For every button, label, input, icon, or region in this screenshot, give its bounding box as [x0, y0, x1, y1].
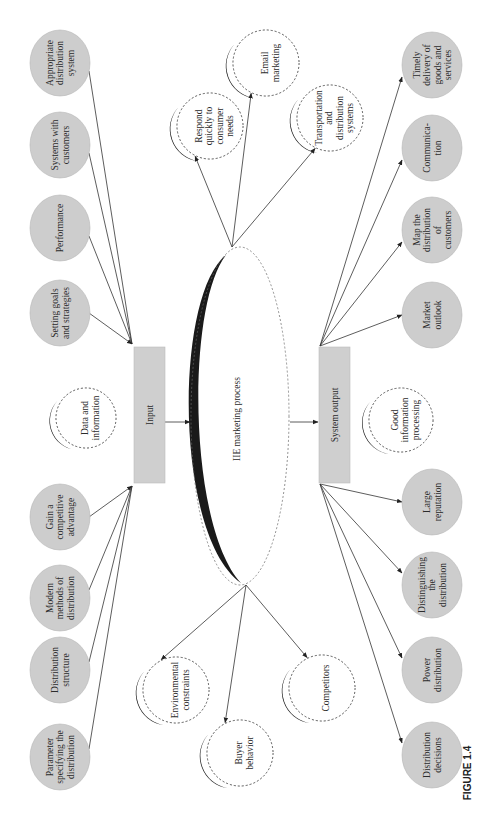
output-target-reputation-label-line: reputation	[433, 482, 443, 521]
input-source-systems-label-line: Systems with	[50, 119, 60, 170]
line-systems-to-input	[89, 153, 132, 344]
iie-marketing-process-node: IIE marketing process	[189, 247, 289, 585]
process-output-respond-label-line: consumer	[215, 107, 225, 145]
iie-marketing-process-diagram: IIE marketing processInputSystem outputA…	[0, 0, 487, 840]
input-source-parameter-label-line: Parameter	[45, 737, 55, 776]
process-output-email-label-line: Email	[260, 51, 270, 74]
line-output-to-power	[320, 484, 402, 658]
input-source-parameter: Parameterspecifying thedistribution	[30, 724, 90, 790]
output-target-timely-label-line: services	[443, 49, 453, 80]
input-source-parameter-label-line: distribution	[66, 735, 76, 779]
output-target-market-label-line: outlook	[433, 300, 443, 329]
line-process-to-transport	[232, 148, 315, 247]
input-source-modern: Modernmethods ofdistribution	[30, 565, 90, 631]
process-output-environment-label-line: constraints	[181, 669, 191, 710]
input-source-systems: Systems withcustomers	[30, 112, 90, 178]
line-output-to-distinguishing	[320, 484, 402, 573]
input-source-competitive-label-line: advantage	[66, 498, 76, 537]
input-source-competitive: Gain acompetitiveadvantage	[30, 484, 90, 550]
output-target-timely-label-line: goods and	[433, 45, 443, 84]
input-source-performance-label-line: Performance	[55, 204, 65, 253]
input-source-parameter-label: Parameterspecifying thedistribution	[45, 730, 76, 784]
input-source-modern-label-line: methods of	[55, 576, 65, 619]
line-process-to-environment	[161, 585, 246, 660]
process-output-respond-label-line: Respond	[194, 109, 204, 143]
output-target-map-label-line: customers	[443, 210, 453, 249]
process-output-buyer-label-line: Buyer	[234, 741, 244, 765]
input-source-goals-label-line: Setting goals	[50, 288, 60, 338]
input-source-appropriate: Appropriatedistributionsystem	[30, 30, 90, 96]
system-output-box: System output	[319, 347, 350, 483]
output-target-decisions-label-line: decisions	[433, 737, 443, 773]
process-output-transport: Transportationanddistributionsystems	[290, 85, 363, 153]
process-output-transport-label-line: systems	[345, 103, 355, 133]
input-source-performance-label: Performance	[55, 204, 65, 253]
process-output-transport-label-line: Transportation	[314, 90, 324, 146]
input-side-note-label: Data andinformation	[80, 395, 101, 440]
input-source-appropriate-label-line: system	[66, 49, 76, 76]
input-source-goals-label: Setting goalsand strategies	[50, 287, 71, 339]
line-process-to-respond	[195, 156, 232, 247]
output-target-communication-label-line: Communica-	[422, 123, 432, 173]
output-target-distinguishing-label-line: Distinguishing	[417, 557, 427, 613]
output-target-reputation-label-line: Large	[422, 491, 432, 513]
input-source-goals-label-line: and strategies	[61, 287, 71, 339]
output-target-decisions-label: Distributiondecisions	[422, 732, 443, 778]
input-side-note-label-line: information	[91, 395, 101, 440]
output-target-map: Map thedistributionofcustomers	[402, 197, 462, 263]
process-output-transport-label-line: distribution	[335, 96, 345, 140]
input-source-modern-label-line: Modern	[45, 583, 55, 613]
line-parameter-to-input	[89, 486, 132, 749]
output-target-market-label-line: Market	[422, 301, 432, 329]
output-side-note-label-line: processing	[411, 399, 421, 440]
output-target-communication: Communica-tion	[402, 115, 462, 181]
process-output-buyer-label-line: behavior	[245, 736, 255, 770]
process-output-email: Emailmarketing	[226, 30, 299, 98]
input-source-performance: Performance	[30, 195, 90, 261]
output-target-distinguishing: Distinguishingthedistribution	[402, 552, 462, 618]
output-target-communication-label-line: tion	[433, 140, 443, 155]
process-output-transport-label-line: and	[324, 111, 334, 125]
input-source-goals: Setting goalsand strategies	[30, 280, 90, 346]
output-target-decisions: Distributiondecisions	[402, 722, 462, 788]
line-appropriate-to-input	[89, 71, 132, 344]
output-target-timely-label-line: delivery of	[422, 43, 432, 85]
process-output-respond-label-line: quickly to	[204, 107, 214, 146]
process-output-buyer: Buyerbehavior	[200, 720, 273, 788]
output-target-map-label-line: of	[433, 225, 443, 234]
output-side-note-label-line: information	[400, 397, 410, 442]
figure-caption-group: FIGURE 1.4	[462, 745, 473, 800]
line-process-to-buyer	[225, 585, 246, 723]
output-side-note-label-line: Good	[390, 409, 400, 430]
input-side-note: Data andinformation	[49, 388, 116, 450]
output-target-map-label-line: Map the	[412, 214, 422, 245]
process-label: IIE marketing process	[232, 377, 242, 461]
line-output-to-communication	[320, 160, 402, 346]
line-output-to-reputation	[320, 484, 402, 502]
input-source-structure: Distributionstructure	[30, 637, 90, 703]
process-output-respond: Respondquickly toconsumerneeds	[170, 93, 243, 161]
input-source-competitive-label-line: competitive	[55, 495, 65, 540]
output-target-market: Marketoutlook	[402, 282, 462, 348]
process-output-email-label-line: marketing	[271, 43, 281, 82]
input-source-modern-label-line: distribution	[66, 576, 76, 620]
input-label: Input	[145, 405, 155, 425]
input-source-structure-label-line: Distribution	[50, 647, 60, 693]
process-output-environment: Environmentalconstraints	[136, 657, 209, 725]
process-output-competitors: Competitors	[282, 655, 355, 723]
output-target-power-label-line: Power	[422, 657, 432, 682]
input-source-systems-label-line: customers	[61, 125, 71, 164]
process-output-environment-label-line: Environmental	[170, 661, 180, 718]
output-target-map-label-line: distribution	[422, 208, 432, 252]
output-target-timely: Timelydelivery ofgoods andservices	[402, 32, 462, 98]
figure-caption: FIGURE 1.4	[462, 745, 473, 800]
output-target-market-label: Marketoutlook	[422, 300, 443, 329]
process-output-environment-label: Environmentalconstraints	[170, 661, 191, 718]
input-side-note-label-line: Data and	[80, 401, 90, 435]
output-target-distinguishing-label-line: distribution	[438, 563, 448, 607]
output-target-timely-label-line: Timely	[412, 51, 422, 78]
input-source-structure-label: Distributionstructure	[50, 647, 71, 693]
input-source-appropriate-label-line: distribution	[55, 41, 65, 85]
line-performance-to-input	[89, 236, 132, 344]
input-source-competitive-label-line: Gain a	[45, 504, 55, 530]
